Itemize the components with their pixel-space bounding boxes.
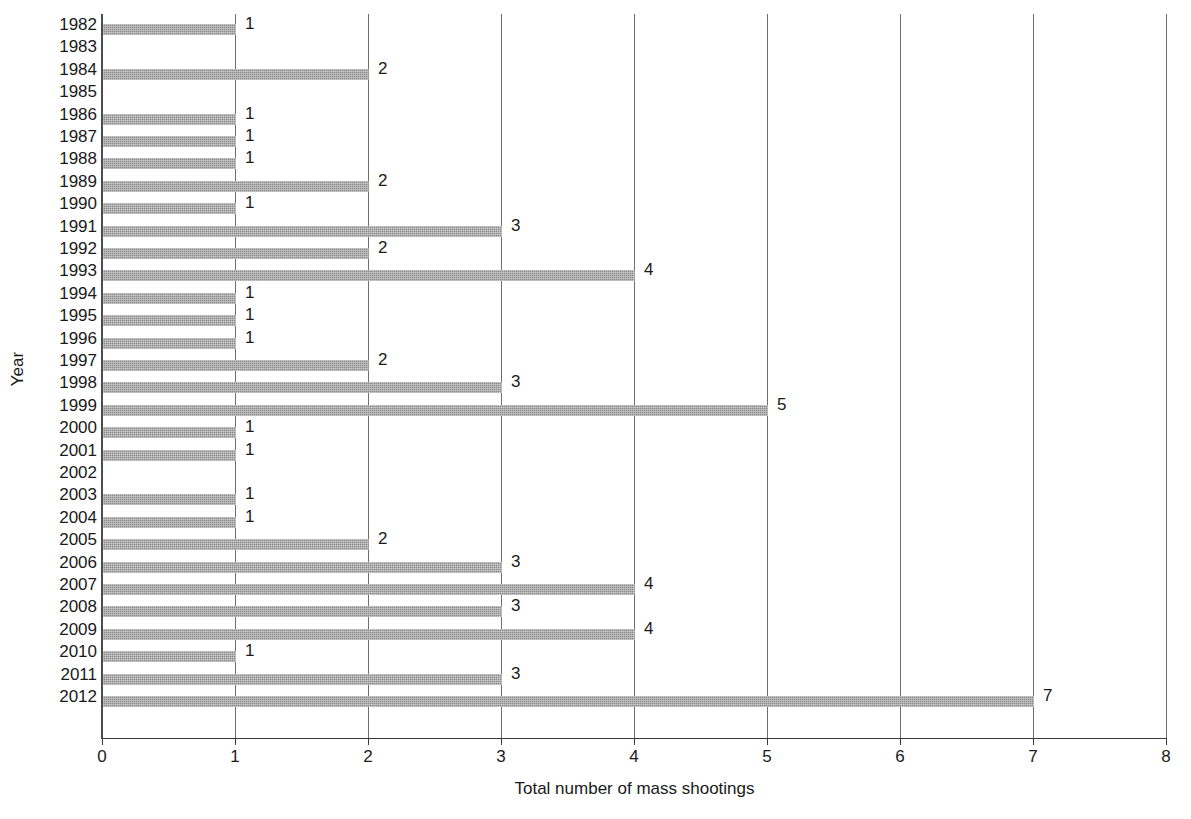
bar-2003 xyxy=(103,494,236,505)
bar-value-label-1990: 1 xyxy=(245,194,254,211)
bar-2006 xyxy=(103,562,502,573)
x-tick-label-6: 6 xyxy=(880,748,920,766)
year-label-1991: 1991 xyxy=(0,218,97,235)
year-label-1992: 1992 xyxy=(0,240,97,257)
year-label-1995: 1995 xyxy=(0,307,97,324)
bar-value-label-2009: 4 xyxy=(644,620,653,637)
x-tick-5 xyxy=(767,738,768,745)
bar-row: 20041 xyxy=(0,507,1191,529)
bar-row: 20052 xyxy=(0,529,1191,551)
bar-1986 xyxy=(103,114,236,125)
year-label-2003: 2003 xyxy=(0,486,97,503)
bar-value-label-1998: 3 xyxy=(511,373,520,390)
bar-row: 19881 xyxy=(0,148,1191,170)
bar-1989 xyxy=(103,181,369,192)
x-tick-7 xyxy=(1033,738,1034,745)
bar-1982 xyxy=(103,24,236,35)
bar-value-label-1984: 2 xyxy=(378,60,387,77)
bar-value-label-1989: 2 xyxy=(378,172,387,189)
year-label-1987: 1987 xyxy=(0,128,97,145)
x-tick-label-4: 4 xyxy=(614,748,654,766)
bar-2009 xyxy=(103,629,635,640)
bar-value-label-2005: 2 xyxy=(378,530,387,547)
bar-2007 xyxy=(103,584,635,595)
x-tick-label-5: 5 xyxy=(747,748,787,766)
bar-row: 19951 xyxy=(0,305,1191,327)
year-label-1997: 1997 xyxy=(0,352,97,369)
bar-value-label-1996: 1 xyxy=(245,329,254,346)
year-label-2009: 2009 xyxy=(0,621,97,638)
year-label-2008: 2008 xyxy=(0,598,97,615)
bar-row: 1983 xyxy=(0,36,1191,58)
year-label-2000: 2000 xyxy=(0,419,97,436)
bar-value-label-2007: 4 xyxy=(644,575,653,592)
year-label-1990: 1990 xyxy=(0,195,97,212)
x-tick-6 xyxy=(900,738,901,745)
bar-1984 xyxy=(103,69,369,80)
bar-value-label-1991: 3 xyxy=(511,217,520,234)
x-tick-8 xyxy=(1166,738,1167,745)
bar-row: 20031 xyxy=(0,484,1191,506)
bar-value-label-2000: 1 xyxy=(245,418,254,435)
bar-1999 xyxy=(103,405,768,416)
bar-row: 19901 xyxy=(0,193,1191,215)
mass-shootings-bar-chart: Year 19821198319842198519861198711988119… xyxy=(0,0,1191,819)
bar-value-label-2010: 1 xyxy=(245,642,254,659)
bar-row: 20011 xyxy=(0,440,1191,462)
bar-row: 19913 xyxy=(0,216,1191,238)
year-label-1993: 1993 xyxy=(0,262,97,279)
bar-1994 xyxy=(103,293,236,304)
year-label-1996: 1996 xyxy=(0,330,97,347)
x-tick-label-7: 7 xyxy=(1013,748,1053,766)
year-label-2004: 2004 xyxy=(0,509,97,526)
bar-2000 xyxy=(103,427,236,438)
bar-1996 xyxy=(103,338,236,349)
bar-2010 xyxy=(103,651,236,662)
bar-2004 xyxy=(103,517,236,528)
bar-row: 19941 xyxy=(0,283,1191,305)
bar-2005 xyxy=(103,539,369,550)
bar-value-label-2011: 3 xyxy=(511,665,520,682)
bar-row: 19861 xyxy=(0,104,1191,126)
x-tick-label-1: 1 xyxy=(215,748,255,766)
bar-row: 20113 xyxy=(0,664,1191,686)
bar-1993 xyxy=(103,270,635,281)
x-axis-title: Total number of mass shootings xyxy=(102,779,1167,799)
year-label-2006: 2006 xyxy=(0,554,97,571)
x-tick-label-8: 8 xyxy=(1146,748,1186,766)
bar-1987 xyxy=(103,136,236,147)
x-tick-label-3: 3 xyxy=(481,748,521,766)
year-label-2001: 2001 xyxy=(0,442,97,459)
bar-1992 xyxy=(103,248,369,259)
bar-row: 20094 xyxy=(0,619,1191,641)
bar-row: 19983 xyxy=(0,372,1191,394)
year-label-2007: 2007 xyxy=(0,576,97,593)
x-tick-0 xyxy=(102,738,103,745)
bar-value-label-1999: 5 xyxy=(777,396,786,413)
year-label-1985: 1985 xyxy=(0,83,97,100)
year-label-1994: 1994 xyxy=(0,285,97,302)
year-label-2011: 2011 xyxy=(0,666,97,683)
bar-value-label-1987: 1 xyxy=(245,127,254,144)
bar-2012 xyxy=(103,696,1034,707)
bar-value-label-1992: 2 xyxy=(378,239,387,256)
bar-row: 20074 xyxy=(0,574,1191,596)
bar-row: 2002 xyxy=(0,462,1191,484)
year-label-1998: 1998 xyxy=(0,374,97,391)
bar-row: 19934 xyxy=(0,260,1191,282)
bar-row: 20083 xyxy=(0,596,1191,618)
year-label-1984: 1984 xyxy=(0,61,97,78)
bar-1991 xyxy=(103,226,502,237)
year-label-1983: 1983 xyxy=(0,38,97,55)
bar-value-label-1993: 4 xyxy=(644,261,653,278)
year-label-1986: 1986 xyxy=(0,106,97,123)
bar-row: 19871 xyxy=(0,126,1191,148)
bar-row: 19842 xyxy=(0,59,1191,81)
bar-row: 20063 xyxy=(0,552,1191,574)
year-label-2005: 2005 xyxy=(0,531,97,548)
bar-row: 19892 xyxy=(0,171,1191,193)
bar-row: 20001 xyxy=(0,417,1191,439)
x-tick-3 xyxy=(501,738,502,745)
bar-value-label-1986: 1 xyxy=(245,105,254,122)
bar-value-label-2001: 1 xyxy=(245,441,254,458)
